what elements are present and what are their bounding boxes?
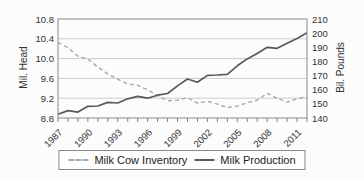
milk-dairy-chart-figure: Mil. Head 198719901993199619992002200520… — [0, 0, 364, 182]
x-tick-label: 2005 — [221, 127, 244, 148]
y-right-tick-label: 160 — [312, 84, 328, 95]
x-tick-label: 2008 — [251, 127, 274, 148]
left-axis-labels: 8.89.29.610.010.410.8 — [36, 14, 55, 124]
y-left-tick-label: 10.4 — [36, 33, 55, 44]
y-left-tick-label: 9.2 — [41, 93, 54, 104]
series-line-production — [58, 33, 307, 115]
y-right-tick-label: 170 — [312, 70, 328, 81]
legend-entry-inventory: Milk Cow Inventory — [68, 154, 187, 166]
legend-label-inventory: Milk Cow Inventory — [94, 154, 187, 166]
x-tick-label: 1990 — [72, 127, 95, 148]
legend-label-production: Milk Production — [220, 154, 295, 166]
y-right-tick-label: 180 — [312, 56, 328, 67]
y-right-tick-label: 200 — [312, 28, 328, 39]
y-left-tick-label: 10.8 — [36, 14, 55, 25]
right-axis-labels: 140150160170180190200210 — [312, 14, 328, 124]
x-tick-label: 1987 — [42, 127, 65, 148]
x-tick-label: 2002 — [191, 127, 214, 148]
y-right-tick-label: 140 — [312, 113, 328, 124]
x-tick-label: 2011 — [281, 127, 303, 148]
y-left-tick-label: 9.6 — [41, 73, 54, 84]
y-left-tick-label: 8.8 — [41, 113, 54, 124]
production-line-sample — [194, 159, 214, 161]
legend: Milk Cow Inventory Milk Production — [58, 150, 305, 170]
y-right-tick-label: 210 — [312, 14, 328, 25]
y-left-tick-label: 10.0 — [36, 53, 55, 64]
inventory-line-sample — [68, 159, 88, 161]
x-axis-labels: 198719901993199619992002200520082011 — [42, 127, 304, 148]
x-axis-ticks — [58, 118, 307, 122]
x-tick-label: 1999 — [161, 127, 184, 148]
x-tick-label: 1996 — [131, 127, 154, 148]
x-tick-label: 1993 — [101, 127, 124, 148]
y-right-tick-label: 190 — [312, 42, 328, 53]
y-right-tick-label: 150 — [312, 98, 328, 109]
plot-border — [58, 19, 307, 118]
legend-entry-production: Milk Production — [194, 154, 295, 166]
plot-area: 1987199019931996199920022005200820118.89… — [0, 0, 364, 148]
